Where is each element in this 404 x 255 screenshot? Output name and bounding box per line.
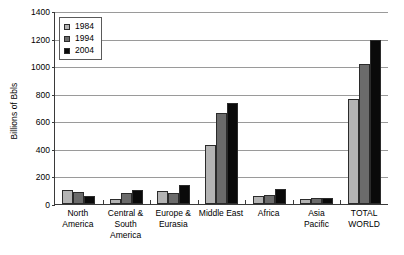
bar-group <box>150 12 198 204</box>
y-axis-tick-label: 600 <box>36 118 50 127</box>
x-axis-label-line: Central & <box>102 208 150 219</box>
x-axis-label-line: Middle East <box>197 208 245 219</box>
bar-group <box>293 12 341 204</box>
x-axis-label: Middle East <box>197 208 245 241</box>
x-axis-tick-mark <box>198 200 199 204</box>
bar <box>168 193 179 204</box>
bar <box>275 189 286 204</box>
bar-group <box>245 12 293 204</box>
x-axis-label-line: WORLD <box>340 219 388 230</box>
y-axis-tick-label: 200 <box>36 173 50 182</box>
legend-label: 1984 <box>75 22 94 31</box>
bar <box>62 190 73 204</box>
x-axis-label: NorthAmerica <box>54 208 102 241</box>
y-axis-title: Billions of Bbls <box>9 56 19 166</box>
x-axis-label: Europe &Eurasia <box>149 208 197 241</box>
x-axis-label-line: America <box>102 230 150 241</box>
bar <box>84 196 95 204</box>
bar <box>157 191 168 205</box>
y-axis-tick-label: 1000 <box>31 63 50 72</box>
bar <box>216 113 227 204</box>
chart-legend: 198419942004 <box>59 17 102 60</box>
legend-item[interactable]: 2004 <box>64 45 94 56</box>
y-axis-tick-label: 1400 <box>31 8 50 17</box>
legend-swatch-icon <box>64 36 70 42</box>
legend-label: 2004 <box>75 46 94 55</box>
bar-chart: Billions of Bbls 02004006008001000120014… <box>0 0 404 255</box>
bar <box>132 190 143 204</box>
plot-area: 0200400600800100012001400 <box>54 12 388 205</box>
bar <box>253 196 264 204</box>
x-axis-label: Central &SouthAmerica <box>102 208 150 241</box>
bar <box>110 199 121 204</box>
bar <box>121 193 132 204</box>
bar <box>348 99 359 204</box>
x-axis-tick-mark <box>293 200 294 204</box>
y-axis-tick-label: 800 <box>36 90 50 99</box>
x-axis-label: AsiaPacific <box>293 208 341 241</box>
x-axis-label-line: Eurasia <box>149 219 197 230</box>
x-axis-tick-mark <box>340 200 341 204</box>
x-axis-tick-mark <box>150 200 151 204</box>
legend-item[interactable]: 1994 <box>64 33 94 44</box>
bar <box>264 195 275 204</box>
bar <box>311 198 322 204</box>
bar <box>370 40 381 204</box>
x-axis-label-line: Africa <box>245 208 293 219</box>
bar <box>205 145 216 204</box>
x-axis-label-line: North <box>54 208 102 219</box>
bar-group <box>103 12 151 204</box>
bar <box>359 64 370 204</box>
x-axis-label-line: Europe & <box>149 208 197 219</box>
x-axis-tick-mark <box>245 200 246 204</box>
x-axis-label: Africa <box>245 208 293 241</box>
x-axis-label-line: TOTAL <box>340 208 388 219</box>
x-axis-labels: NorthAmericaCentral &SouthAmericaEurope … <box>54 208 388 241</box>
y-axis-tick-label: 400 <box>36 146 50 155</box>
bar-groups <box>55 12 388 204</box>
bar-group <box>198 12 246 204</box>
bar <box>227 103 238 204</box>
y-axis-tick-label: 0 <box>45 201 50 210</box>
x-axis-label: TOTALWORLD <box>340 208 388 241</box>
x-axis-label-line: Asia <box>293 208 341 219</box>
legend-item[interactable]: 1984 <box>64 21 94 32</box>
bar-group <box>340 12 388 204</box>
bar <box>179 185 190 204</box>
bar <box>300 199 311 204</box>
x-axis-label-line: America <box>54 219 102 230</box>
legend-swatch-icon <box>64 48 70 54</box>
bar <box>322 198 333 204</box>
y-axis-tick-label: 1200 <box>31 35 50 44</box>
x-axis-label-line: South <box>102 219 150 230</box>
bar <box>73 192 84 204</box>
y-axis-tick-mark <box>52 205 55 206</box>
legend-label: 1994 <box>75 34 94 43</box>
x-axis-tick-mark <box>103 200 104 204</box>
legend-swatch-icon <box>64 24 70 30</box>
x-axis-label-line: Pacific <box>293 219 341 230</box>
